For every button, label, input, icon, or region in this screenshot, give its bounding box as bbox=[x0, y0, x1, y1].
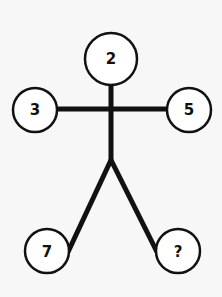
left-leg-line bbox=[68, 160, 111, 252]
right-hand-value: 5 bbox=[184, 101, 194, 119]
head-value: 2 bbox=[106, 50, 116, 68]
right-foot-value: ? bbox=[174, 243, 183, 261]
left-hand-value: 3 bbox=[30, 101, 40, 119]
stick-figure-diagram: 2 3 5 7 ? bbox=[0, 0, 222, 297]
right-leg-line bbox=[111, 160, 157, 252]
left-foot-value: 7 bbox=[42, 243, 52, 261]
